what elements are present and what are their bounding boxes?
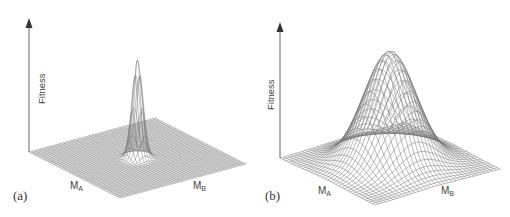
arrow-up-icon — [277, 22, 284, 32]
ma-axis-label: MA — [70, 180, 83, 192]
fitness-axis-label: Fitness — [36, 73, 47, 104]
ma-axis-label: MA — [318, 185, 331, 197]
mb-axis-label: MB — [441, 185, 454, 197]
panel-b-smooth-peak: Fitness MA MB (b) — [255, 0, 510, 217]
wireframe-mesh — [280, 51, 500, 205]
surface-plot-b — [255, 0, 510, 217]
arrow-up-icon — [26, 18, 33, 28]
surface-plot-a — [0, 0, 255, 217]
fitness-axis-label: Fitness — [265, 79, 276, 110]
wireframe-mesh — [29, 60, 246, 198]
panel-tag-a: (a) — [13, 188, 27, 204]
mb-axis-label: MB — [193, 180, 206, 192]
panel-a-sharp-peak: Fitness MA MB (a) — [0, 0, 255, 217]
panel-tag-b: (b) — [265, 188, 280, 204]
